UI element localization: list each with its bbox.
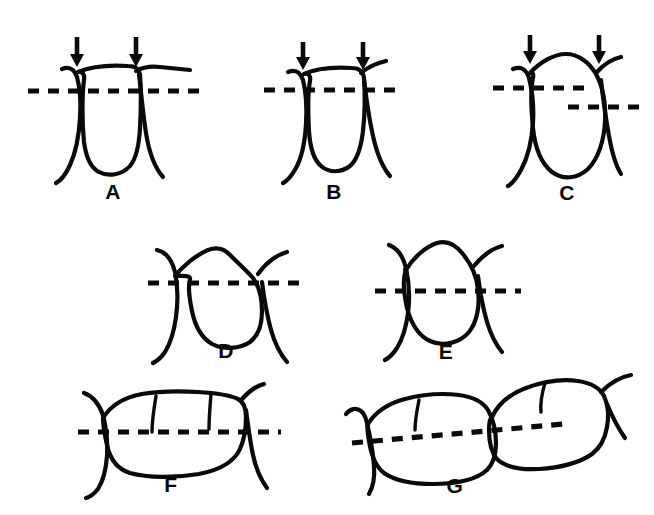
panel-f-groove-distal	[209, 394, 211, 429]
panel-b-label: B	[326, 180, 342, 203]
panel-a-label: A	[105, 180, 121, 203]
figure-container: A B	[0, 0, 654, 515]
tooth-contact-figure: A B	[0, 0, 654, 515]
panel-d-label: D	[218, 339, 234, 362]
figure-background	[0, 0, 654, 515]
panel-c-label: C	[559, 181, 575, 204]
panel-f-label: F	[164, 473, 177, 496]
panel-g-label: G	[447, 474, 464, 497]
panel-e-label: E	[439, 340, 454, 363]
